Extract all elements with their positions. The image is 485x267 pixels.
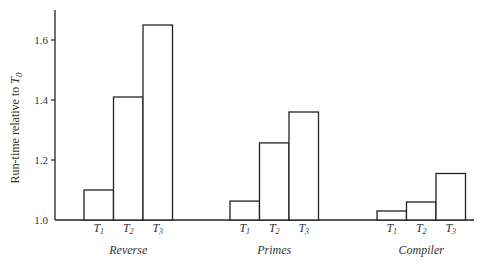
y-tick-label: 1.0 [34, 214, 48, 226]
bar-primes-t2 [260, 143, 290, 220]
y-tick-label: 1.4 [34, 94, 48, 106]
y-tick-label: 1.2 [34, 154, 48, 166]
bar-label: T1 [93, 221, 104, 236]
bars [84, 25, 466, 220]
group-label-primes: Primes [256, 243, 291, 257]
bar-compiler-t1 [377, 211, 407, 220]
bar-label: T1 [386, 221, 397, 236]
y-axis-title: Run-time relative to T0 [8, 72, 24, 183]
bar-reverse-t1 [84, 190, 114, 220]
group-label-compiler: Compiler [399, 243, 445, 257]
bar-label: T1 [239, 221, 250, 236]
bar-label: T3 [445, 221, 456, 236]
bar-primes-t3 [289, 112, 319, 220]
bar-label: T2 [416, 221, 427, 236]
bar-reverse-t2 [114, 97, 144, 220]
bar-compiler-t2 [407, 202, 437, 220]
bar-label: T3 [298, 221, 309, 236]
bar-primes-t1 [230, 201, 260, 220]
bar-compiler-t3 [436, 174, 466, 221]
bar-label: T2 [269, 221, 280, 236]
bar-label: T2 [123, 221, 134, 236]
y-tick-label: 1.6 [34, 34, 48, 46]
group-label-reverse: Reverse [108, 243, 148, 257]
bar-chart: 1.01.21.41.6 Run-time relative to T0T1T2… [0, 0, 485, 267]
labels: Run-time relative to T0T1T2T3ReverseT1T2… [8, 72, 456, 257]
bar-label: T3 [152, 221, 163, 236]
bar-reverse-t3 [143, 25, 173, 220]
